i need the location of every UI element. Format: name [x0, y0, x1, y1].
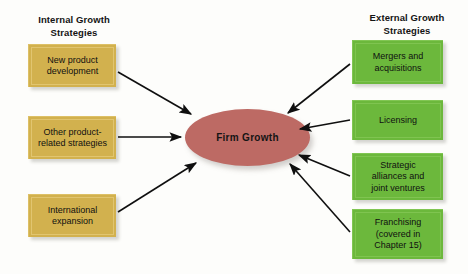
internal-growth-heading-line2: Strategies — [14, 27, 134, 40]
node-mergers-line2: acquisitions — [374, 63, 421, 73]
node-strategic-alliances-joint-ventures: Strategic alliances and joint ventures — [352, 153, 443, 200]
node-new-product-development-line1: New product — [47, 55, 98, 65]
node-new-product-development: New product development — [28, 44, 116, 87]
internal-growth-heading: Internal Growth Strategies — [14, 14, 134, 39]
arrow-licensing-to-center — [300, 120, 350, 129]
arrow-mergers-to-center — [288, 64, 350, 113]
node-mergers-line1: Mergers and — [373, 51, 424, 61]
external-growth-heading-line1: External Growth — [347, 12, 467, 25]
arrow-franchising-to-center — [290, 164, 350, 232]
center-node-label: Firm Growth — [216, 132, 279, 143]
node-franchising: Franchising (covered in Chapter 15) — [352, 209, 443, 259]
internal-growth-heading-line1: Internal Growth — [14, 14, 134, 27]
arrow-strategic-to-center — [299, 155, 350, 176]
node-other-product-line2: related strategies — [38, 138, 107, 148]
external-growth-heading: External Growth Strategies — [347, 12, 467, 37]
node-strategic-line3: joint ventures — [371, 183, 425, 193]
node-licensing-line1: Licensing — [379, 115, 417, 125]
node-licensing: Licensing — [352, 100, 443, 140]
node-strategic-line2: alliances and — [372, 171, 425, 181]
center-node-firm-growth: Firm Growth — [185, 109, 310, 166]
arrow-new-product-to-center — [118, 72, 191, 114]
node-strategic-line1: Strategic — [380, 160, 416, 170]
node-mergers-and-acquisitions: Mergers and acquisitions — [352, 40, 443, 84]
node-other-product-related-strategies: Other product- related strategies — [28, 116, 116, 159]
arrow-international-to-center — [118, 163, 196, 212]
diagram-canvas: Internal Growth Strategies External Grow… — [0, 0, 468, 274]
node-franchising-line1: Franchising — [375, 217, 422, 227]
node-franchising-line3: Chapter 15) — [374, 240, 422, 250]
node-international-line2: expansion — [52, 216, 93, 226]
node-international-line1: International — [48, 205, 98, 215]
node-other-product-line1: Other product- — [43, 127, 101, 137]
node-franchising-line2: (covered in — [376, 229, 421, 239]
node-new-product-development-line2: development — [47, 66, 99, 76]
node-international-expansion: International expansion — [28, 194, 116, 237]
external-growth-heading-line2: Strategies — [347, 25, 467, 38]
